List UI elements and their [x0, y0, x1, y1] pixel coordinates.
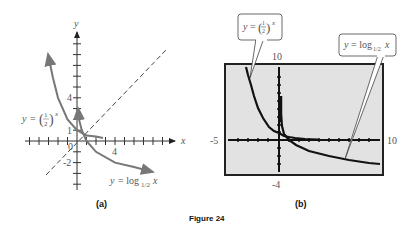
tick-label-y-4: 4 [67, 92, 72, 103]
panel-b-label: (b) [295, 199, 307, 209]
svg-text:y: y [242, 21, 248, 32]
curve-exponential-a [48, 54, 103, 138]
figure-caption: Figure 24 [189, 214, 225, 223]
tick-label-origin: 0 [68, 141, 73, 152]
panel-a: x y 4 0 4 1 -2 [21, 18, 186, 209]
window-ymin-label: -4 [272, 179, 280, 190]
svg-text:y: y [109, 175, 115, 186]
svg-text:=: = [30, 113, 36, 124]
window-ymax-label: 10 [272, 51, 282, 62]
svg-text:1/2: 1/2 [373, 46, 381, 52]
tick-label-x-4: 4 [112, 146, 117, 157]
svg-text:1: 1 [44, 111, 48, 119]
svg-text:2: 2 [44, 120, 48, 128]
window-xmax-label: 10 [387, 135, 397, 146]
svg-text:x: x [152, 175, 158, 186]
svg-text:1: 1 [262, 20, 265, 26]
svg-text:y: y [21, 113, 27, 124]
svg-text:y: y [343, 39, 349, 50]
curve-logarithm-a-top [78, 108, 79, 114]
svg-text:= log: = log [351, 39, 372, 50]
svg-text:): ) [266, 20, 270, 35]
svg-text:= log: = log [118, 175, 139, 186]
y-axis-label: y [73, 18, 79, 29]
x-axis-label: x [180, 135, 186, 146]
svg-text:x: x [54, 110, 59, 118]
panel-b: 10 -5 10 -4 [210, 14, 397, 209]
svg-text:x: x [384, 39, 390, 50]
svg-text:): ) [49, 112, 54, 128]
figure-canvas: x y 4 0 4 1 -2 [0, 0, 418, 226]
tick-label-y-neg2: -2 [63, 157, 71, 168]
label-exponential-a: y = ( 1 2 ) x [21, 110, 59, 128]
panel-a-label: (a) [96, 199, 107, 209]
window-xmin-label: -5 [210, 135, 218, 146]
svg-text:1/2: 1/2 [141, 181, 150, 189]
label-logarithm-a: y = log 1/2 x [109, 175, 158, 189]
svg-text:=: = [250, 21, 256, 32]
tick-label-y-1: 1 [67, 125, 72, 136]
svg-text:2: 2 [262, 28, 265, 34]
